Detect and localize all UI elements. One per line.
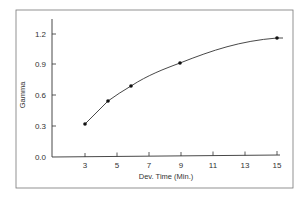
data-point: [129, 84, 133, 88]
x-tick-label: 11: [209, 161, 218, 170]
chart-frame: [16, 10, 293, 188]
data-point: [275, 36, 279, 40]
y-tick-label: 0.3: [35, 122, 47, 131]
x-tick-label: 13: [241, 161, 250, 170]
y-tick-label: 0.6: [35, 91, 47, 100]
y-tick-label: 0.0: [35, 153, 47, 162]
x-tick-label: 9: [179, 161, 184, 170]
y-tick-label: 0.9: [35, 60, 47, 69]
x-tick-label: 5: [115, 161, 120, 170]
x-tick-labels: 3 5 7 9 11 13 15: [83, 161, 282, 170]
data-point: [178, 61, 182, 65]
y-tick-labels: 1.2 0.9 0.6 0.3 0.0: [35, 30, 47, 162]
data-point: [83, 122, 87, 126]
data-markers: [83, 36, 279, 126]
data-point: [106, 99, 110, 103]
y-tick-label: 1.2: [35, 30, 47, 39]
chart-canvas: 1.2 0.9 0.6 0.3 0.0 3 5 7 9 11 13 15 Dev…: [0, 0, 303, 198]
x-axis-title: Dev. Time (Min.): [139, 172, 194, 181]
x-tick-label: 3: [83, 161, 88, 170]
x-tick-label: 15: [273, 161, 282, 170]
x-tick-label: 7: [147, 161, 152, 170]
x-axis: [52, 155, 280, 157]
y-axis-title: Gamma: [18, 81, 27, 109]
y-ticks: [52, 34, 56, 126]
gamma-curve: [85, 38, 283, 124]
